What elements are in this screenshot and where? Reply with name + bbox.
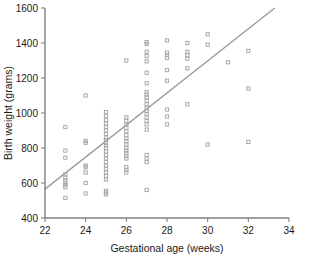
data-point-marker (125, 171, 128, 174)
data-point-marker (104, 122, 107, 125)
data-point-marker (104, 132, 107, 135)
data-point-marker (64, 125, 67, 128)
x-tick-label: 22 (39, 225, 51, 236)
data-point-marker (104, 150, 107, 153)
data-point-marker (64, 186, 67, 189)
data-point-marker (186, 50, 189, 53)
data-point-marker (104, 167, 107, 170)
data-point-marker (84, 192, 87, 195)
data-point-marker (145, 82, 148, 85)
data-point-marker (165, 56, 168, 59)
data-point-marker (64, 196, 67, 199)
data-point-marker (145, 119, 148, 122)
y-tick-label: 400 (21, 213, 38, 224)
data-point-marker (104, 114, 107, 117)
data-point-marker (125, 139, 128, 142)
data-point-marker (125, 133, 128, 136)
data-point-marker (145, 157, 148, 160)
data-point-marker (125, 130, 128, 133)
data-point-marker (206, 43, 209, 46)
y-tick-label: 1400 (16, 38, 39, 49)
data-point-marker (104, 171, 107, 174)
data-point-marker (125, 126, 128, 129)
data-point-marker (145, 116, 148, 119)
data-point-marker (145, 188, 148, 191)
data-point-marker (104, 118, 107, 121)
data-point-marker (125, 143, 128, 146)
data-point-marker (145, 55, 148, 58)
data-point-marker (125, 59, 128, 62)
data-point-marker (145, 153, 148, 156)
data-point-marker (104, 129, 107, 132)
data-point-marker (125, 157, 128, 160)
data-point-marker (165, 39, 168, 42)
data-point-marker (206, 33, 209, 36)
data-point-marker (64, 149, 67, 152)
x-tick-label: 32 (243, 225, 255, 236)
data-point-marker (104, 164, 107, 167)
x-tick-label: 30 (202, 225, 214, 236)
scatter-chart-figure: 400600800100012001400160022242628303234G… (0, 0, 313, 260)
data-point-marker (145, 103, 148, 106)
data-point-marker (186, 103, 189, 106)
data-point-marker (104, 160, 107, 163)
data-point-marker (84, 94, 87, 97)
data-point-marker (206, 143, 209, 146)
data-point-marker (145, 123, 148, 126)
y-tick-label: 800 (21, 143, 38, 154)
y-axis-title: Birth weight (grams) (2, 66, 14, 160)
data-point-marker (145, 96, 148, 99)
data-point-marker (104, 157, 107, 160)
data-point-marker (165, 115, 168, 118)
data-point-marker (125, 119, 128, 122)
data-point-marker (145, 160, 148, 163)
data-point-marker (165, 108, 168, 111)
x-tick-label: 28 (161, 225, 173, 236)
y-tick-label: 1000 (16, 108, 39, 119)
data-point-marker (64, 173, 67, 176)
data-point-marker (104, 174, 107, 177)
data-point-marker (145, 112, 148, 115)
data-point-marker (247, 140, 250, 143)
data-point-marker (165, 123, 168, 126)
data-point-marker (145, 106, 148, 109)
data-point-marker (125, 116, 128, 119)
data-point-marker (145, 71, 148, 74)
trend-line (45, 8, 275, 189)
data-point-marker (145, 99, 148, 102)
data-point-marker (226, 61, 229, 64)
y-tick-label: 1600 (16, 3, 39, 14)
y-tick-label: 600 (21, 178, 38, 189)
data-point-marker (104, 111, 107, 114)
data-point-marker (145, 50, 148, 53)
data-point-marker (104, 125, 107, 128)
data-point-marker (84, 171, 87, 174)
data-point-marker (104, 146, 107, 149)
data-point-marker (247, 87, 250, 90)
x-axis-title: Gestational age (weeks) (110, 242, 223, 254)
data-points (64, 33, 250, 200)
data-point-marker (145, 128, 148, 131)
plot-area: 400600800100012001400160022242628303234G… (0, 0, 313, 260)
data-point-marker (84, 181, 87, 184)
data-point-marker (104, 153, 107, 156)
data-point-marker (165, 69, 168, 72)
x-tick-label: 34 (283, 225, 295, 236)
x-tick-label: 26 (121, 225, 133, 236)
y-tick-label: 1200 (16, 73, 39, 84)
data-point-marker (186, 57, 189, 60)
data-point-marker (186, 54, 189, 57)
x-tick-label: 24 (80, 225, 92, 236)
data-point-marker (165, 79, 168, 82)
data-point-marker (247, 49, 250, 52)
data-point-marker (145, 60, 148, 63)
data-point-marker (64, 156, 67, 159)
regression-trend-line (45, 8, 275, 189)
data-point-marker (186, 41, 189, 44)
data-point-marker (104, 178, 107, 181)
data-point-marker (186, 67, 189, 70)
